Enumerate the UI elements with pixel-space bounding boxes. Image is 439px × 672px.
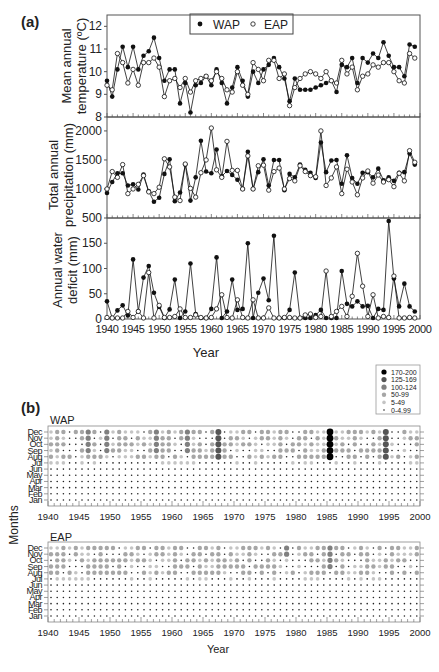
- bubble: [242, 609, 244, 611]
- bubble: [205, 493, 207, 495]
- bubble: [125, 609, 127, 611]
- bubble: [204, 558, 208, 562]
- bubble: [373, 547, 375, 549]
- y-tick-label: 100: [82, 262, 102, 276]
- bubble: [391, 493, 393, 495]
- bubble: [236, 456, 238, 458]
- bubble: [359, 430, 363, 434]
- wap-point: [345, 65, 350, 70]
- bubble: [80, 461, 84, 465]
- bubble: [247, 552, 251, 556]
- wap-point: [366, 304, 371, 309]
- eap-point: [272, 58, 276, 62]
- bubble: [149, 547, 151, 549]
- bubble: [347, 577, 351, 581]
- bubble: [81, 474, 83, 476]
- bubble: [193, 468, 195, 470]
- bubble: [187, 481, 189, 483]
- bubble: [323, 584, 325, 586]
- bubble: [342, 468, 344, 470]
- bubble: [353, 571, 357, 575]
- eap-point: [126, 309, 130, 313]
- bubble: [137, 578, 139, 580]
- bubble: [353, 565, 357, 569]
- bubble: [56, 474, 58, 476]
- bubble: [149, 597, 151, 599]
- wap-point: [355, 299, 360, 304]
- bubble: [242, 474, 244, 476]
- bubble: [180, 609, 182, 611]
- bubble: [149, 590, 151, 592]
- eap-point: [141, 316, 145, 320]
- eap-point: [381, 180, 385, 184]
- bubble: [255, 487, 257, 489]
- bubble: [218, 474, 220, 476]
- bubble: [100, 615, 102, 617]
- bubble: [249, 499, 251, 501]
- bubble: [75, 560, 77, 562]
- bubble: [81, 468, 83, 470]
- bubble: [371, 448, 375, 452]
- bubble: [104, 442, 109, 447]
- bubble: [75, 566, 77, 568]
- bubble: [130, 577, 134, 581]
- x-tick-label: 1940: [37, 511, 58, 522]
- bubble: [162, 603, 164, 605]
- bubble: [218, 590, 220, 592]
- bubble: [315, 546, 319, 550]
- bubble: [111, 448, 115, 452]
- bubble: [211, 584, 213, 586]
- bubble: [310, 577, 314, 581]
- bubble: [410, 560, 412, 562]
- bubble: [198, 442, 202, 446]
- wap-point: [256, 290, 261, 295]
- bubble: [322, 559, 326, 563]
- bubble: [174, 468, 176, 470]
- wap-point: [204, 169, 209, 174]
- bubble: [360, 609, 362, 611]
- bubble: [100, 603, 102, 605]
- bubble: [309, 442, 313, 446]
- bubble: [317, 584, 319, 586]
- bubble: [261, 474, 263, 476]
- eap-point: [277, 316, 281, 320]
- bubble: [86, 571, 90, 575]
- bubble: [130, 546, 134, 550]
- bubble: [249, 590, 251, 592]
- bubble: [162, 493, 164, 495]
- bubble: [211, 481, 213, 483]
- bubble: [50, 468, 52, 470]
- bubble: [404, 444, 406, 446]
- bubble: [137, 450, 139, 452]
- bubble: [298, 499, 300, 501]
- bubble: [63, 468, 65, 470]
- bubble: [297, 436, 301, 440]
- bubble: [409, 455, 413, 459]
- bubble: [100, 493, 102, 495]
- eap-point: [115, 316, 119, 320]
- bubble: [379, 487, 381, 489]
- bubble: [334, 436, 338, 440]
- x-tick-label: 1995: [378, 627, 399, 638]
- bubble: [143, 450, 145, 452]
- eap-point: [204, 74, 208, 78]
- bubble: [106, 609, 108, 611]
- bubble: [173, 564, 177, 568]
- bubble: [342, 615, 344, 617]
- bubble: [111, 443, 115, 447]
- bubble: [408, 436, 412, 440]
- bubble-legend-label: 170-200: [391, 369, 417, 376]
- bubble: [105, 564, 109, 568]
- bubble: [131, 462, 133, 464]
- bubble: [161, 559, 165, 563]
- bubble: [334, 430, 338, 434]
- bubble: [211, 468, 213, 470]
- bubble: [261, 481, 263, 483]
- bubble: [323, 481, 325, 483]
- bubble: [391, 487, 393, 489]
- wap-point: [345, 153, 350, 158]
- eap-point: [256, 67, 260, 71]
- bubble: [156, 584, 158, 586]
- eap-point: [173, 314, 177, 318]
- x-tick-label: 2000: [409, 627, 430, 638]
